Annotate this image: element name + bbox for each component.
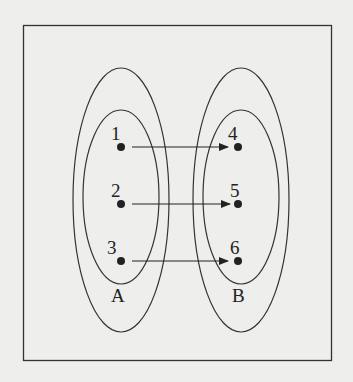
- label-b3: 6: [230, 237, 240, 258]
- set-b-inner-ellipse: [203, 110, 279, 284]
- point-a2: [117, 200, 125, 208]
- point-b1: [234, 143, 242, 151]
- point-a1: [117, 143, 125, 151]
- point-b3: [234, 257, 242, 265]
- set-a-label: A: [111, 285, 125, 306]
- label-a3: 3: [107, 237, 117, 258]
- label-a1: 1: [111, 123, 121, 144]
- point-b2: [234, 200, 242, 208]
- label-a2: 2: [111, 180, 121, 201]
- label-b1: 4: [228, 123, 238, 144]
- set-b-label: B: [232, 285, 245, 306]
- point-a3: [117, 257, 125, 265]
- mapping-diagram: 1 2 3 4 5 6 A B: [0, 0, 353, 382]
- frame-border: [24, 26, 332, 361]
- label-b2: 5: [230, 180, 240, 201]
